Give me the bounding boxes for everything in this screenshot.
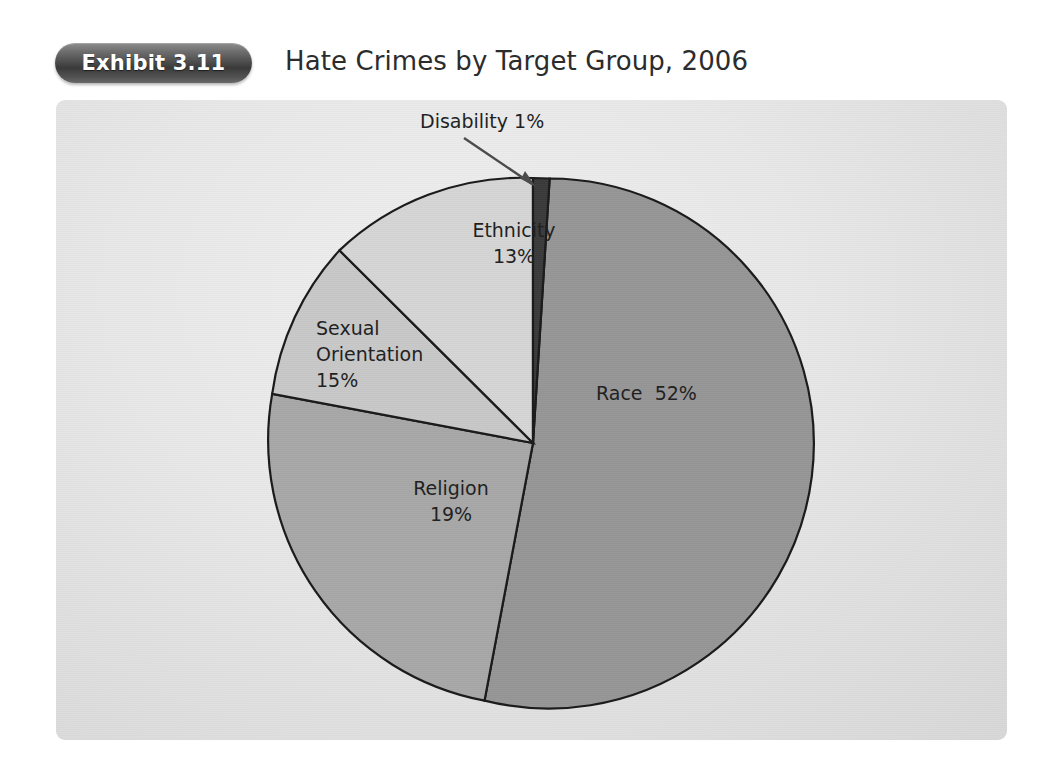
exhibit-number-badge: Exhibit 3.11	[55, 43, 252, 83]
pie-chart	[56, 100, 1007, 740]
exhibit-number-label: Exhibit 3.11	[82, 51, 226, 75]
chart-panel: Disability 1% Ethnicity 13% Sexual Orien…	[56, 100, 1007, 740]
exhibit-header: Exhibit 3.11 Hate Crimes by Target Group…	[0, 0, 1055, 100]
page-title: Hate Crimes by Target Group, 2006	[285, 46, 748, 76]
pie-slice-religion	[268, 394, 533, 701]
